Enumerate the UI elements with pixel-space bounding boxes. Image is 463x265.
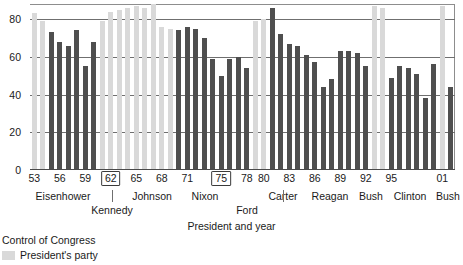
bar-1975 [219, 76, 224, 170]
baseline-axis [30, 169, 455, 170]
x-tick-label-59: 59 [79, 172, 91, 185]
bar-1961 [100, 21, 105, 170]
bar-1965 [134, 6, 139, 170]
bar-1981 [270, 8, 275, 170]
x-tick-label-80: 80 [258, 172, 270, 185]
bar-1959 [83, 66, 88, 170]
bar-1968 [159, 27, 164, 170]
bar-2002 [448, 87, 453, 170]
x-tick-label-65: 65 [130, 172, 142, 185]
bar-1963 [117, 10, 122, 170]
bar-1962 [108, 12, 113, 170]
x-tick-label-95: 95 [385, 172, 397, 185]
bar-1984 [295, 46, 300, 171]
bar-1976 [227, 59, 232, 170]
x-tick-label-89: 89 [334, 172, 346, 185]
bar-1985 [304, 55, 309, 170]
bar-1982 [278, 34, 283, 170]
president-label-ford-4: Ford [236, 204, 258, 216]
x-tick-label-53: 53 [28, 172, 40, 185]
plot-area: 020406080 [30, 4, 455, 170]
bar-2001 [440, 6, 445, 170]
bar-2000 [431, 64, 436, 170]
x-tick-label-75: 75 [211, 171, 231, 186]
bar-1958 [74, 30, 79, 170]
x-tick-label-68: 68 [156, 172, 168, 185]
bar-1953 [32, 13, 37, 170]
x-tick-label-71: 71 [181, 172, 193, 185]
bar-1979 [253, 21, 258, 170]
y-tick-label-60: 60 [9, 52, 21, 62]
president-leader-line-1 [283, 190, 284, 202]
bar-1998 [414, 74, 419, 170]
bar-1970 [176, 30, 181, 170]
bar-1992 [363, 66, 368, 170]
legend: Control of Congress President's party [2, 234, 98, 261]
bar-series [30, 4, 455, 170]
legend-title: Control of Congress [2, 234, 98, 247]
president-label-bush-7: Bush [359, 190, 383, 202]
bar-1967 [151, 4, 156, 170]
bar-1983 [287, 44, 292, 170]
president-label-nixon-3: Nixon [192, 190, 219, 202]
bar-1993 [372, 6, 377, 170]
bar-1990 [346, 51, 351, 170]
bar-1969 [168, 29, 173, 170]
bar-1980 [261, 19, 266, 170]
bar-1966 [142, 8, 147, 170]
legend-item-presidents-party: President's party [2, 250, 98, 261]
bar-1973 [202, 38, 207, 170]
bar-1991 [355, 53, 360, 170]
bar-1964 [125, 8, 130, 170]
president-leader-line-0 [112, 190, 113, 202]
bar-1986 [312, 62, 317, 170]
bar-1996 [397, 66, 402, 170]
bar-1957 [66, 46, 71, 171]
bar-1954 [40, 21, 45, 170]
legend-swatch-icon [2, 251, 15, 260]
x-tick-label-01: 01 [436, 172, 448, 185]
x-tick-label-78: 78 [241, 172, 253, 185]
bar-1956 [57, 42, 62, 170]
y-tick-label-80: 80 [9, 14, 21, 24]
bar-chart: 020406080 535659626568717578808386899295… [0, 0, 463, 265]
bar-1994 [380, 8, 385, 170]
president-label-kennedy-1: Kennedy [91, 204, 132, 216]
x-tick-label-92: 92 [360, 172, 372, 185]
x-tick-label-83: 83 [283, 172, 295, 185]
bar-1995 [389, 78, 394, 170]
legend-item-label: President's party [20, 250, 98, 261]
y-tick-label-0: 0 [15, 165, 21, 175]
bar-1988 [329, 79, 334, 170]
bar-1999 [423, 98, 428, 170]
bar-1971 [185, 27, 190, 170]
bar-1989 [338, 51, 343, 170]
president-label-eisenhower-0: Eisenhower [36, 190, 91, 202]
president-label-bush-9: Bush [436, 190, 460, 202]
x-tick-label-56: 56 [54, 172, 66, 185]
bar-1978 [244, 68, 249, 170]
bar-1977 [236, 57, 241, 170]
bar-1997 [406, 68, 411, 170]
president-label-johnson-2: Johnson [132, 190, 172, 202]
bar-1972 [193, 29, 198, 170]
x-axis-title: President and year [0, 220, 463, 232]
president-label-clinton-8: Clinton [394, 190, 427, 202]
x-tick-label-86: 86 [309, 172, 321, 185]
y-tick-label-20: 20 [9, 127, 21, 137]
president-label-reagan-6: Reagan [312, 190, 349, 202]
bar-1955 [49, 32, 54, 170]
bar-1974 [210, 59, 215, 170]
x-axis-ticks: 53565962656871757880838689929501 [30, 172, 455, 186]
bar-1960 [91, 42, 96, 170]
bar-1987 [321, 87, 326, 170]
x-tick-label-62: 62 [101, 171, 121, 186]
y-tick-label-40: 40 [9, 90, 21, 100]
